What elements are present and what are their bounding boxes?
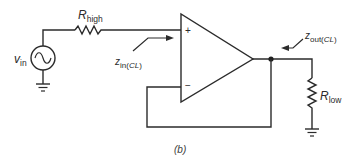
- rhigh-label: Rhigh: [78, 6, 103, 22]
- rlow-label: Rlow: [320, 87, 341, 103]
- noninverting-sign: +: [185, 26, 191, 36]
- voltage-follower-circuit: vin Rhigh Rlow zin(CL) zout(CL) + − (b): [0, 0, 354, 166]
- zin-sub-close: ): [139, 61, 142, 70]
- zout-label: zout(CL): [305, 26, 337, 42]
- wire-source-to-rhigh: [43, 30, 75, 46]
- resistor-rlow-icon: [308, 78, 316, 129]
- zout-sub-plain: out(: [310, 35, 324, 44]
- zin-sub-italic: CL: [129, 61, 139, 70]
- zout-sub-close: ): [334, 35, 337, 44]
- ground-icon-source: [36, 84, 50, 91]
- wire-feedback: [147, 59, 271, 127]
- zin-arrow-icon: [133, 35, 174, 51]
- zout-sub-italic: CL: [324, 35, 334, 44]
- zout-subscript: out(CL): [310, 35, 337, 44]
- rhigh-subscript: high: [87, 14, 103, 24]
- opamp-triangle-icon: [181, 14, 253, 102]
- zin-label: zin(CL): [115, 52, 142, 68]
- wire-output: [253, 59, 312, 78]
- figure-caption: (b): [174, 145, 186, 155]
- zout-arrow-icon: [281, 39, 303, 51]
- rlow-subscript: low: [329, 95, 342, 105]
- inverting-sign: −: [185, 81, 191, 91]
- rlow-symbol: R: [320, 89, 329, 103]
- zin-sub-plain: in(: [120, 61, 129, 70]
- rhigh-symbol: R: [78, 8, 87, 22]
- resistor-rhigh-icon: [75, 26, 103, 34]
- ground-icon-load: [305, 129, 319, 136]
- zin-subscript: in(CL): [120, 61, 142, 70]
- circuit-schematic: [0, 0, 354, 166]
- ac-source-icon: [31, 46, 55, 70]
- vin-label: vin: [14, 50, 27, 66]
- vin-subscript: in: [20, 58, 27, 68]
